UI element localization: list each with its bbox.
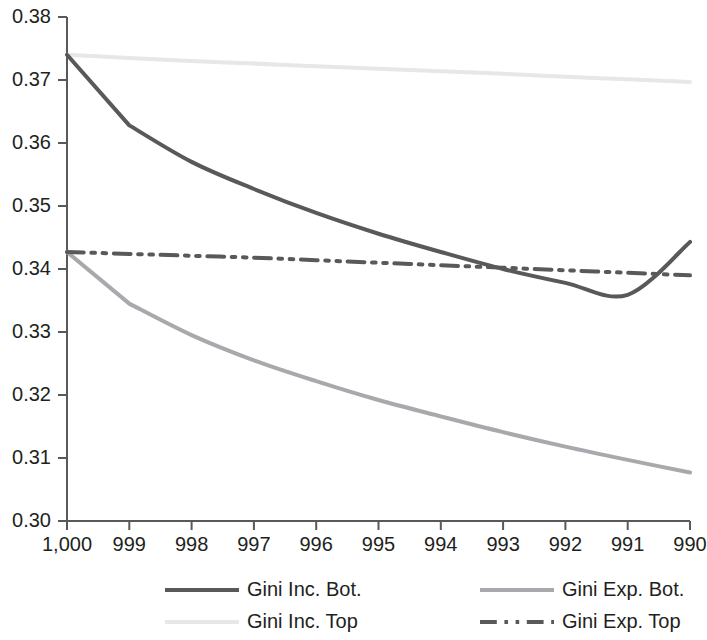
series-line-gini-exp-top — [67, 252, 690, 275]
legend-label: Gini Inc. Top — [247, 610, 358, 632]
y-tick-label: 0.30 — [12, 509, 51, 531]
x-tick-label: 990 — [673, 533, 706, 555]
y-tick-label: 0.33 — [12, 320, 51, 342]
line-chart: 0.380.370.360.350.340.330.320.310.30 1,0… — [0, 0, 707, 640]
y-tick-label: 0.32 — [12, 383, 51, 405]
x-tick-label: 991 — [611, 533, 644, 555]
x-tick-label: 996 — [300, 533, 333, 555]
x-tick-label: 994 — [424, 533, 457, 555]
chart-legend: Gini Inc. Bot.Gini Exp. Bot.Gini Inc. To… — [165, 578, 684, 632]
series-line-gini-exp-bot — [67, 252, 690, 472]
x-tick-label: 995 — [362, 533, 395, 555]
x-tick-label: 999 — [113, 533, 146, 555]
y-tick-label: 0.31 — [12, 446, 51, 468]
x-tick-label: 992 — [549, 533, 582, 555]
x-tick-label: 998 — [175, 533, 208, 555]
series-line-gini-inc-top — [67, 55, 690, 82]
series-line-gini-inc-bot — [67, 55, 690, 297]
x-tick-label: 993 — [486, 533, 519, 555]
legend-label: Gini Inc. Bot. — [247, 578, 362, 600]
chart-figure: 0.380.370.360.350.340.330.320.310.30 1,0… — [0, 0, 707, 640]
y-tick-label: 0.35 — [12, 194, 51, 216]
x-tick-label: 1,000 — [42, 533, 92, 555]
series-lines — [67, 55, 690, 473]
y-tick-label: 0.38 — [12, 5, 51, 27]
legend-label: Gini Exp. Bot. — [562, 578, 684, 600]
x-tick-label: 997 — [237, 533, 270, 555]
y-axis: 0.380.370.360.350.340.330.320.310.30 — [12, 5, 67, 531]
y-tick-label: 0.34 — [12, 257, 51, 279]
legend-label: Gini Exp. Top — [562, 610, 681, 632]
y-tick-label: 0.37 — [12, 68, 51, 90]
y-tick-label: 0.36 — [12, 131, 51, 153]
x-axis: 1,000999998997996995994993992991990 — [42, 521, 707, 555]
